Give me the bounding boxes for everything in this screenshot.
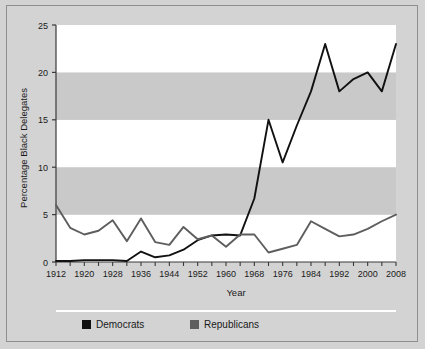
x-tick-label: 1952 <box>188 269 208 279</box>
x-axis-title: Year <box>226 287 245 298</box>
x-tick-label: 2008 <box>386 269 406 279</box>
x-tick-label: 1992 <box>329 269 349 279</box>
plot-band <box>56 215 396 262</box>
y-tick-label: 20 <box>38 68 48 78</box>
legend-swatch <box>82 320 91 329</box>
legend-label: Democrats <box>96 319 144 330</box>
x-axis-tick-labels: 1912192019281936194419521960196819761984… <box>46 269 406 279</box>
chart-legend: DemocratsRepublicans <box>82 319 259 330</box>
x-tick-label: 1920 <box>74 269 94 279</box>
y-tick-label: 0 <box>43 258 48 268</box>
plot-band <box>56 72 396 119</box>
x-tick-label: 1976 <box>273 269 293 279</box>
y-tick-label: 25 <box>38 21 48 31</box>
chart-figure: 0510152025 19121920192819361944195219601… <box>0 0 425 349</box>
x-tick-label: 1944 <box>159 269 179 279</box>
y-tick-label: 5 <box>43 210 48 220</box>
plot-band <box>56 120 396 167</box>
legend-label: Republicans <box>204 319 259 330</box>
x-tick-label: 1960 <box>216 269 236 279</box>
plot-band <box>56 167 396 214</box>
x-tick-label: 1936 <box>131 269 151 279</box>
plot-band <box>56 25 396 72</box>
legend-swatch <box>190 320 199 329</box>
x-tick-label: 1968 <box>244 269 264 279</box>
x-tick-label: 1984 <box>301 269 321 279</box>
line-chart: 0510152025 19121920192819361944195219601… <box>0 0 425 349</box>
x-tick-label: 1928 <box>103 269 123 279</box>
x-tick-label: 1912 <box>46 269 66 279</box>
y-tick-label: 15 <box>38 115 48 125</box>
y-tick-label: 10 <box>38 163 48 173</box>
y-axis-tick-labels: 0510152025 <box>38 21 48 268</box>
y-axis-title: Percentage Black Delegates <box>18 88 29 208</box>
x-tick-label: 2000 <box>358 269 378 279</box>
plot-gridline-bands <box>56 25 396 262</box>
